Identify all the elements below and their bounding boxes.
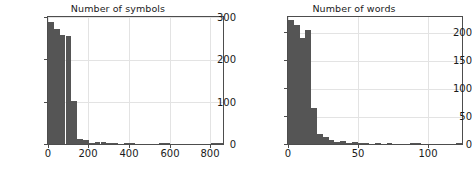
ytick-mark — [284, 32, 287, 33]
histogram-bar — [375, 143, 381, 144]
ytick-label: 200 — [194, 54, 236, 65]
ytick-mark — [284, 116, 287, 117]
ytick-label: 200 — [426, 27, 472, 38]
ytick-mark — [284, 60, 287, 61]
xtick-label: 800 — [200, 148, 219, 159]
xtick-mark — [288, 145, 289, 148]
ytick-label: 50 — [426, 111, 472, 122]
ytick-label: 150 — [426, 55, 472, 66]
ytick-label: 300 — [194, 12, 236, 23]
xtick-label: 0 — [45, 148, 51, 159]
xtick-mark — [88, 145, 89, 148]
histogram-bar — [112, 143, 118, 144]
xtick-label: 600 — [160, 148, 179, 159]
ytick-mark — [44, 59, 47, 60]
xtick-mark — [428, 145, 429, 148]
histogram-bars-symbols — [48, 17, 223, 144]
ytick-label: 100 — [426, 83, 472, 94]
plot-area-symbols — [47, 16, 224, 145]
xtick-mark — [358, 145, 359, 148]
ytick-mark — [44, 17, 47, 18]
ytick-mark — [44, 144, 47, 145]
xtick-label: 0 — [285, 148, 291, 159]
xtick-mark — [170, 145, 171, 148]
xtick-mark — [210, 145, 211, 148]
xtick-mark — [48, 145, 49, 148]
histogram-bar — [130, 143, 136, 144]
panel-number-of-symbols: Number of symbols 300 200 100 0 0 200 40… — [0, 0, 236, 178]
ytick-label: 100 — [194, 97, 236, 108]
panel-number-of-words: Number of words 200 150 100 50 0 0 50 10… — [236, 0, 472, 178]
ytick-mark — [284, 144, 287, 145]
ytick-mark — [284, 88, 287, 89]
panel-title-words: Number of words — [236, 3, 472, 14]
xtick-label: 50 — [352, 148, 365, 159]
xtick-label: 100 — [418, 148, 437, 159]
histogram-bar — [165, 143, 171, 144]
ytick-mark — [44, 102, 47, 103]
xtick-mark — [129, 145, 130, 148]
histogram-bar — [387, 143, 393, 144]
xtick-label: 400 — [119, 148, 138, 159]
histogram-bar — [416, 143, 422, 144]
histogram-figure: Number of symbols 300 200 100 0 0 200 40… — [0, 0, 472, 178]
histogram-bar — [363, 143, 369, 144]
xtick-label: 200 — [78, 148, 97, 159]
histogram-bar — [71, 101, 77, 144]
